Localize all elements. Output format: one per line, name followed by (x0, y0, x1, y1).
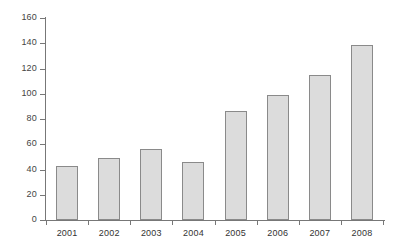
y-axis-tick-label: 160 (21, 12, 37, 23)
y-axis-tick: 100 (0, 94, 45, 95)
y-axis-tick: 80 (0, 119, 45, 120)
x-axis-tick-mark (299, 220, 300, 225)
x-axis-tick-label: 2005 (216, 228, 256, 238)
y-axis-tick: 60 (0, 144, 45, 145)
y-axis-tick-label: 140 (21, 37, 37, 48)
y-axis-tick-mark (40, 43, 45, 44)
y-axis-tick-label: 120 (21, 63, 37, 74)
x-axis-tick-mark (257, 220, 258, 225)
y-axis-tick-mark (40, 195, 45, 196)
x-axis-tick-label: 2008 (342, 228, 382, 238)
bar (267, 95, 289, 220)
plot-area (46, 18, 383, 220)
y-axis-tick-mark (40, 69, 45, 70)
bar (98, 158, 120, 220)
y-axis-tick-label: 80 (27, 113, 37, 124)
y-axis-tick-label: 0 (32, 214, 37, 225)
bar (351, 45, 373, 220)
bar (140, 149, 162, 220)
x-axis-tick-mark (46, 220, 47, 225)
bar (182, 162, 204, 220)
y-axis-tick: 0 (0, 220, 45, 221)
x-axis-tick-label: 2003 (131, 228, 171, 238)
x-axis-tick-mark (341, 220, 342, 225)
y-axis-tick: 160 (0, 18, 45, 19)
y-axis-tick: 20 (0, 195, 45, 196)
x-axis-tick-label: 2007 (300, 228, 340, 238)
y-axis-tick-mark (40, 170, 45, 171)
y-axis-tick-mark (40, 119, 45, 120)
y-axis-tick-label: 20 (27, 189, 37, 200)
y-axis-tick-mark (40, 18, 45, 19)
y-axis-tick: 40 (0, 170, 45, 171)
x-axis-tick-label: 2004 (173, 228, 213, 238)
x-axis-tick-label: 2001 (47, 228, 87, 238)
y-axis-tick-label: 100 (21, 88, 37, 99)
x-axis-tick-mark (130, 220, 131, 225)
y-axis-tick-mark (40, 144, 45, 145)
y-axis-tick-label: 60 (27, 138, 37, 149)
x-axis-tick-mark (383, 220, 384, 225)
bar (56, 166, 78, 220)
x-axis-tick-mark (172, 220, 173, 225)
y-axis-tick-mark (40, 220, 45, 221)
y-axis-tick: 120 (0, 69, 45, 70)
y-axis-tick-mark (40, 94, 45, 95)
bar-chart: 020406080100120140160 200120022003200420… (0, 0, 397, 251)
y-axis-tick: 140 (0, 43, 45, 44)
x-axis-tick-mark (88, 220, 89, 225)
bar (225, 111, 247, 220)
x-axis-tick-mark (215, 220, 216, 225)
x-axis-tick-label: 2002 (89, 228, 129, 238)
x-axis-tick-label: 2006 (258, 228, 298, 238)
y-axis-tick-label: 40 (27, 164, 37, 175)
bar (309, 75, 331, 220)
